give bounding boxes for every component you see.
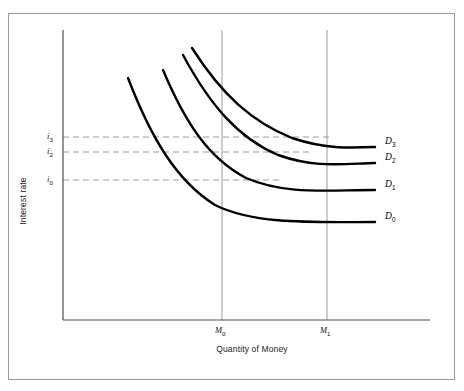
curve-label-D2: D2: [385, 152, 395, 164]
curve-label-D0: D0: [385, 211, 395, 223]
curve-label-D3: D3: [385, 136, 395, 148]
y-tick-label-i3: i3: [47, 131, 53, 143]
y-tick-label-i0: i0: [47, 174, 53, 186]
x-tick-label-M1: M1: [320, 325, 331, 337]
chart-canvas: [0, 0, 464, 391]
axes-group: [63, 30, 430, 320]
reference-lines-group: [63, 30, 330, 320]
x-tick-label-M0: M0: [215, 325, 226, 337]
y-axis-title: Interest rate: [18, 156, 28, 246]
y-tick-label-i2: i2: [47, 146, 53, 158]
money-demand-figure: Interest rate Quantity of Money i3i2i0M0…: [0, 0, 464, 391]
demand-curve-D3: [192, 48, 375, 148]
x-axis-title: Quantity of Money: [172, 344, 332, 354]
demand-curves-group: [128, 48, 375, 222]
curve-label-D1: D1: [385, 179, 395, 191]
demand-curve-D0: [128, 78, 375, 222]
demand-curve-D1: [163, 70, 375, 191]
